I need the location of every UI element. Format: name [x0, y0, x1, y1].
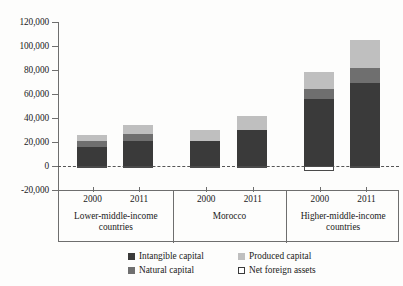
bar-2000-group1: [77, 22, 107, 190]
bar-segment-net-foreign-assets: [190, 166, 220, 168]
bar-segment-intangible-capital: [304, 99, 334, 166]
x-axis-group-label: Lower-middle-incomecountries: [59, 211, 173, 233]
x-axis-tick: [206, 187, 207, 192]
bar-segment-produced-capital: [304, 72, 334, 89]
swatch-natural-capital-icon: [128, 267, 135, 274]
x-axis-tick: [139, 187, 140, 192]
bar-segment-intangible-capital: [237, 130, 267, 166]
y-axis-tick-label: 20,000: [0, 137, 49, 147]
swatch-intangible-capital-icon: [128, 253, 135, 260]
y-axis-tick-label: 100,000: [0, 41, 49, 51]
x-axis-year-label: 2011: [111, 194, 167, 205]
bar-segment-net-foreign-assets: [350, 166, 380, 168]
bar-segment-intangible-capital: [350, 83, 380, 166]
x-axis-tick: [366, 187, 367, 192]
x-axis-tick: [253, 187, 254, 192]
bar-segment-natural-capital: [304, 89, 334, 99]
x-axis-year-label: 2011: [225, 194, 281, 205]
legend-item-produced-capital: Produced capital: [238, 250, 311, 262]
x-axis-tick: [93, 187, 94, 192]
y-axis-tick-label: 40,000: [0, 113, 49, 123]
group-label-line: Morocco: [173, 211, 287, 222]
y-axis-tick-label: 120,000: [0, 17, 49, 27]
bar-segment-natural-capital: [77, 141, 107, 147]
bar-segment-net-foreign-assets: [237, 166, 267, 168]
bar-segment-natural-capital: [123, 134, 153, 141]
swatch-produced-capital-icon: [238, 253, 245, 260]
bar-2011-group2: [237, 22, 267, 190]
plot-area: [58, 22, 399, 190]
bar-segment-intangible-capital: [77, 147, 107, 166]
bar-segment-produced-capital: [237, 116, 267, 130]
legend-label: Intangible capital: [139, 250, 204, 262]
bar-2011-group3: [350, 22, 380, 190]
bar-segment-produced-capital: [350, 40, 380, 68]
bar-2000-group3: [304, 22, 334, 190]
y-axis-tick-label: 80,000: [0, 65, 49, 75]
x-axis-group-label: Morocco: [173, 211, 287, 222]
legend-row: Intangible capital Produced capital: [128, 250, 346, 264]
group-label-line: Higher-middle-income: [286, 211, 400, 222]
x-axis-group-label: Higher-middle-incomecountries: [286, 211, 400, 233]
y-axis-tick-label: 0: [0, 161, 49, 171]
bar-segment-net-foreign-assets: [304, 166, 334, 171]
bar-2011-group1: [123, 22, 153, 190]
bar-segment-produced-capital: [77, 135, 107, 141]
legend-label: Net foreign assets: [249, 264, 316, 276]
x-axis-year-label: 2011: [338, 194, 394, 205]
chart-legend: Intangible capital Produced capital Natu…: [128, 250, 346, 278]
group-label-line: countries: [286, 222, 400, 233]
stacked-bar-chart: 120,000100,00080,00060,00040,00020,0000-…: [0, 0, 403, 286]
swatch-net-foreign-assets-icon: [238, 267, 245, 274]
legend-item-net-foreign-assets: Net foreign assets: [238, 264, 316, 276]
y-axis-tick-label: 60,000: [0, 89, 49, 99]
bar-segment-produced-capital: [190, 130, 220, 141]
group-label-line: countries: [59, 222, 173, 233]
bar-segment-produced-capital: [123, 125, 153, 133]
bar-segment-natural-capital: [350, 68, 380, 84]
legend-label: Natural capital: [139, 264, 194, 276]
legend-row: Natural capital Net foreign assets: [128, 264, 346, 278]
y-axis-tick-label: -20,000: [0, 185, 49, 195]
category-axis: 200020112000201120002011Lower-middle-inc…: [58, 190, 399, 242]
legend-item-intangible-capital: Intangible capital: [128, 250, 238, 262]
x-axis-tick: [320, 187, 321, 192]
bar-segment-intangible-capital: [190, 141, 220, 166]
group-label-line: Lower-middle-income: [59, 211, 173, 222]
bar-2000-group2: [190, 22, 220, 190]
legend-label: Produced capital: [249, 250, 311, 262]
legend-item-natural-capital: Natural capital: [128, 264, 238, 276]
bar-segment-net-foreign-assets: [123, 166, 153, 168]
bar-segment-net-foreign-assets: [77, 166, 107, 168]
bar-segment-intangible-capital: [123, 141, 153, 166]
